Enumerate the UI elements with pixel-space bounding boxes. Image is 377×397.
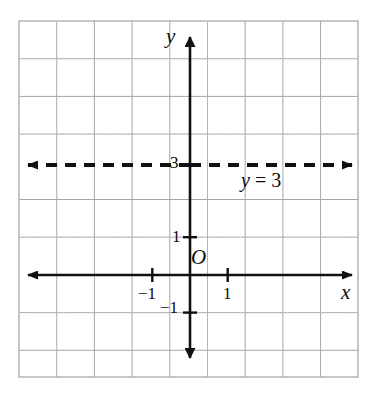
y-axis-label: y — [166, 26, 175, 47]
axes-and-data — [0, 0, 377, 397]
origin-label: O — [191, 247, 206, 268]
y-tick-label-3: 3 — [170, 154, 179, 171]
x-tick-label-1: 1 — [223, 285, 232, 302]
y-tick-label-1: 1 — [172, 228, 181, 245]
equation-operator: = — [250, 169, 271, 191]
equation-variable: y — [241, 169, 250, 191]
y-tick-label-neg1: −1 — [160, 299, 178, 316]
x-axis-label: x — [341, 282, 350, 303]
x-tick-label-neg1: −1 — [138, 285, 156, 302]
equation-value: 3 — [271, 169, 281, 191]
coordinate-plane-figure: y x O 3 1 −1 1 −1 y = 3 — [0, 0, 377, 397]
line-equation-label: y = 3 — [241, 170, 281, 190]
